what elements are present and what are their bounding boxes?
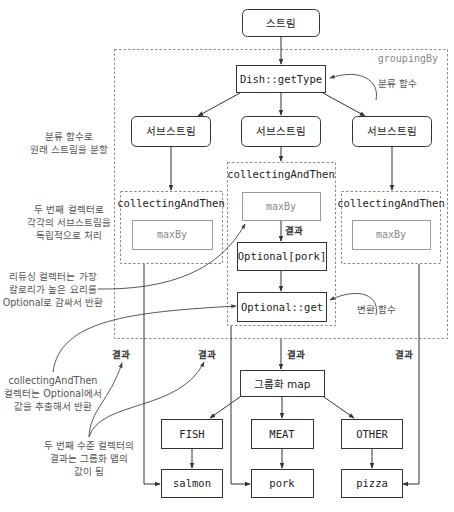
substream-label-2: 서브스트림: [256, 125, 306, 137]
annotation-collecting-then: collectingAndThen 컬렉터는 Optional에서 값을 추출해…: [4, 375, 102, 412]
svg-text:두 번째 수준 컬렉터의: 두 번째 수준 컬렉터의: [44, 440, 134, 451]
grouping-collector-diagram: groupingBy 스트림 Dish::getType 분류 함수 서브스트림…: [0, 0, 454, 512]
svg-text:리듀싱 컬렉터는 가장: 리듀싱 컬렉터는 가장: [9, 271, 96, 282]
svg-text:독립적으로 처리: 독립적으로 처리: [36, 230, 102, 241]
grouping-by-label: groupingBy: [378, 53, 438, 64]
annotation-split: 분류 함수로 원래 스트림을 분할: [30, 131, 108, 155]
key-label-other: OTHER: [356, 428, 388, 440]
classifier-label: Dish::getType: [240, 73, 322, 85]
result-label-center-left: 결과: [198, 349, 216, 360]
svg-text:값을 추출해서 반환: 값을 추출해서 반환: [14, 401, 92, 412]
classifier-note: 분류 함수: [378, 78, 417, 89]
svg-text:각각의 서브스트림을: 각각의 서브스트림을: [27, 217, 111, 228]
arrow-classifier-substream-3: [323, 93, 365, 116]
result-line-salmon: [144, 264, 160, 484]
substream-label-1: 서브스트림: [146, 125, 196, 137]
collecting-label-2: collectingAndThen: [227, 168, 334, 180]
result-label-right: 결과: [395, 349, 413, 360]
substream-label-3: 서브스트림: [367, 125, 417, 137]
result-label-left: 결과: [112, 349, 130, 360]
value-label-salmon: salmon: [173, 477, 211, 489]
transform-note: 변환 함수: [357, 304, 396, 315]
result-line-pork: [231, 326, 250, 484]
key-label-fish: FISH: [179, 428, 204, 440]
svg-text:두 번째 컬렉터로: 두 번째 컬렉터로: [34, 204, 103, 215]
maxby-label-3: maxBy: [376, 229, 406, 240]
classifier-note-pointer: [330, 74, 377, 100]
maxby-label-1: maxBy: [157, 229, 187, 240]
svg-text:Optional로 감싸서 반환: Optional로 감싸서 반환: [3, 297, 104, 308]
result-line-pizza: [403, 264, 419, 484]
optional-get-label: Optional::get: [241, 301, 323, 313]
result-label-center: 결과: [287, 349, 305, 360]
maxby-result-label: 결과: [285, 225, 303, 236]
annotation-map-values: 두 번째 수준 컬렉터의 결과는 그룹화 맵의 값이 됨: [44, 440, 134, 477]
arrow-map-fish: [210, 397, 240, 418]
annotation-second-collector: 두 번째 컬렉터로 각각의 서브스트림을 독립적으로 처리: [27, 204, 111, 241]
annotation-reducing: 리듀싱 컬렉터는 가장 칼로리가 높은 요리를 Optional로 감싸서 반환: [3, 271, 104, 308]
value-label-pizza: pizza: [356, 477, 388, 489]
collecting-label-1: collectingAndThen: [117, 197, 224, 209]
svg-text:칼로리가 높은 요리를: 칼로리가 높은 요리를: [9, 284, 96, 295]
optional-pork-label: Optional[pork]: [238, 250, 327, 262]
svg-text:컬렉터는 Optional에서: 컬렉터는 Optional에서: [4, 388, 102, 399]
maxby-label-2: maxBy: [266, 201, 296, 212]
arrow-classifier-substream-1: [198, 93, 240, 116]
arrow-map-other: [324, 397, 354, 418]
svg-text:결과는 그룹화 맵의: 결과는 그룹화 맵의: [50, 453, 128, 464]
svg-text:collectingAndThen: collectingAndThen: [9, 375, 98, 386]
key-label-meat: MEAT: [269, 428, 295, 440]
svg-text:분류 함수로: 분류 함수로: [45, 131, 93, 142]
group-map-label: 그룹화 map: [254, 378, 311, 390]
svg-text:값이 됨: 값이 됨: [74, 466, 104, 477]
collecting-label-3: collectingAndThen: [337, 197, 444, 209]
value-label-pork: pork: [269, 477, 295, 489]
stream-label: 스트림: [266, 17, 296, 29]
svg-text:원래 스트림을 분할: 원래 스트림을 분할: [30, 144, 108, 155]
